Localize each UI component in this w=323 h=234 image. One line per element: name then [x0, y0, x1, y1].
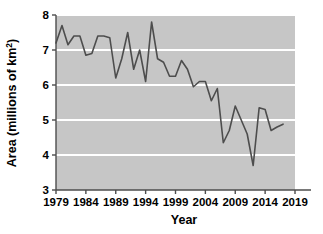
y-axis-title-base: Area (millions of km [5, 48, 19, 167]
x-axis-title: Year [171, 213, 198, 227]
chart-figure: 345678 197919841989199419992004200920142… [0, 0, 323, 234]
x-axis-tick-label: 1994 [133, 196, 159, 208]
x-axis-tick-label: 1999 [163, 196, 189, 208]
y-axis-title: Area (millions of km2) [4, 39, 19, 167]
y-axis-tick-label: 7 [43, 44, 49, 56]
y-axis-tick-label: 8 [43, 9, 50, 21]
x-axis-tick-label: 1989 [103, 196, 129, 208]
y-axis-tick-label: 5 [43, 114, 50, 126]
line-chart: 345678 197919841989199419992004200920142… [0, 0, 323, 234]
x-axis-tick-label: 2019 [282, 196, 308, 208]
x-axis-tick-label: 2004 [193, 196, 219, 208]
x-axis-tick-label: 2014 [252, 196, 278, 208]
x-axis-tick-labels: 197919841989199419992004200920142019 [43, 196, 308, 208]
y-axis-tick-label: 6 [43, 79, 49, 91]
x-axis-tick-label: 1984 [73, 196, 99, 208]
plot-background [56, 15, 295, 190]
y-axis-title-tail: ) [5, 39, 19, 43]
y-axis-tick-labels: 345678 [43, 9, 50, 196]
svg-text:Area (millions of km2): Area (millions of km2) [4, 39, 19, 167]
x-axis-tick-label: 1979 [43, 196, 69, 208]
y-axis-tick-label: 4 [43, 149, 50, 161]
y-axis-tick-label: 3 [43, 184, 49, 196]
x-axis-tick-label: 2009 [222, 196, 248, 208]
